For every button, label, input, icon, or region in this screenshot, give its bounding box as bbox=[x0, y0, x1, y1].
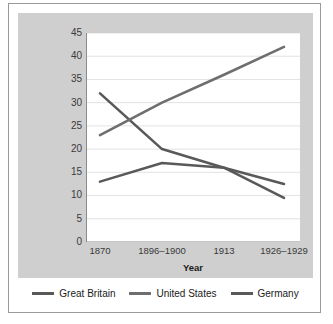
y-tick-label: 15 bbox=[60, 167, 82, 177]
legend-label: Great Britain bbox=[59, 288, 115, 299]
x-tick-label: 1926–1929 bbox=[260, 245, 308, 256]
legend-label: United States bbox=[156, 288, 216, 299]
x-axis-title: Year bbox=[86, 262, 300, 273]
x-tick-label: 1896–1900 bbox=[138, 245, 186, 256]
legend-item-great-britain: Great Britain bbox=[32, 288, 115, 299]
plot-area bbox=[86, 33, 300, 242]
chart-figure: Percentage of World's Industrial Product… bbox=[8, 3, 321, 313]
y-tick-label: 35 bbox=[60, 74, 82, 84]
legend-item-united-states: United States bbox=[129, 288, 216, 299]
series-line-great-britain bbox=[100, 93, 284, 198]
chart-lines bbox=[86, 33, 300, 242]
y-tick-label: 30 bbox=[60, 98, 82, 108]
y-tick-label: 10 bbox=[60, 190, 82, 200]
gridlines bbox=[86, 33, 300, 242]
legend-swatch-icon bbox=[231, 292, 253, 295]
y-tick-label: 25 bbox=[60, 121, 82, 131]
chart-legend: Great Britain United States Germany bbox=[18, 282, 313, 304]
y-tick-label: 5 bbox=[60, 214, 82, 224]
y-tick-label: 40 bbox=[60, 51, 82, 61]
legend-item-germany: Germany bbox=[231, 288, 299, 299]
y-tick-label: 45 bbox=[60, 28, 82, 38]
legend-label: Germany bbox=[258, 288, 299, 299]
chart-panel: Percentage of World's Industrial Product… bbox=[18, 13, 313, 278]
x-tick-label: 1870 bbox=[89, 245, 110, 256]
x-tick-label: 1913 bbox=[213, 245, 234, 256]
legend-swatch-icon bbox=[129, 292, 151, 295]
x-axis-tick-labels: 1870 1896–1900 1913 1926–1929 bbox=[86, 245, 300, 259]
y-tick-label: 20 bbox=[60, 144, 82, 154]
legend-swatch-icon bbox=[32, 292, 54, 295]
y-axis-tick-labels: 45 40 35 30 25 20 15 10 5 0 bbox=[56, 33, 82, 242]
series-line-united-states bbox=[100, 47, 284, 135]
y-tick-label: 0 bbox=[60, 237, 82, 247]
series-line-germany bbox=[100, 163, 284, 184]
